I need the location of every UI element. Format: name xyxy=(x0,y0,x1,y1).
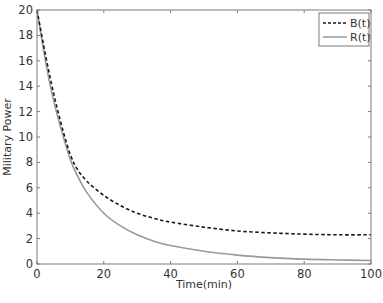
y-tick-label: 6 xyxy=(26,181,33,195)
x-tick-label: 100 xyxy=(360,267,382,281)
y-tick-label: 0 xyxy=(26,257,33,271)
y-tick-label: 2 xyxy=(26,232,33,246)
y-tick-label: 18 xyxy=(18,28,33,42)
plot-area xyxy=(37,10,371,264)
x-tick-label: 0 xyxy=(33,267,40,281)
y-axis-label: Military Power xyxy=(1,98,14,176)
y-tick-label: 4 xyxy=(26,206,33,220)
y-tick-label: 8 xyxy=(26,155,33,169)
y-tick-label: 16 xyxy=(18,54,33,68)
line-chart: 020406080100 02468101214161820 Time(min)… xyxy=(0,0,383,303)
x-tick-label: 20 xyxy=(96,267,111,281)
y-tick-label: 14 xyxy=(18,79,33,93)
x-tick-label: 60 xyxy=(230,267,245,281)
y-tick-label: 12 xyxy=(18,105,33,119)
legend-label-r: R(t) xyxy=(350,31,371,44)
x-axis-label: Time(min) xyxy=(175,278,232,291)
x-tick-label: 80 xyxy=(297,267,312,281)
legend: B(t) R(t) xyxy=(319,13,371,46)
y-tick-label: 10 xyxy=(18,130,33,144)
legend-label-b: B(t) xyxy=(350,17,370,30)
y-tick-label: 20 xyxy=(18,3,33,17)
